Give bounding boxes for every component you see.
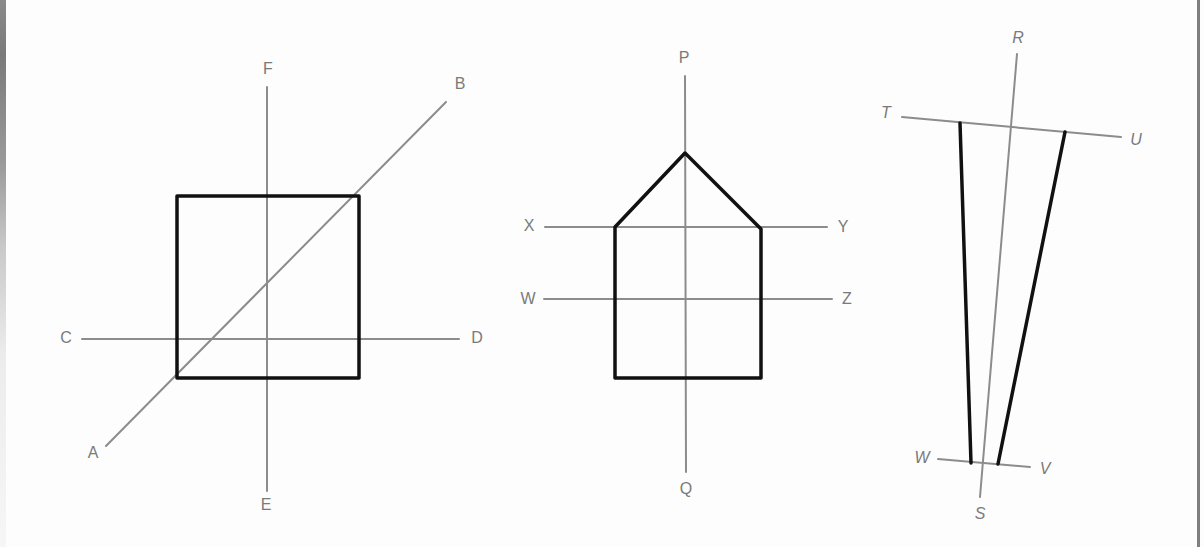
line-a-b <box>106 102 446 446</box>
label-u: U <box>1130 131 1142 148</box>
line-r-s <box>980 54 1017 497</box>
label-p: P <box>679 49 690 66</box>
label-y: Y <box>838 218 849 235</box>
label-q: Q <box>680 480 692 497</box>
diagram-canvas: A B C D E F P Q X Y W Z R <box>0 0 1204 547</box>
geometry-diagram: A B C D E F P Q X Y W Z R <box>0 0 1204 547</box>
label-x: X <box>524 217 535 234</box>
trapezoid-right-side <box>998 132 1065 464</box>
label-w2: W <box>914 449 931 466</box>
trapezoid-left-side <box>960 123 971 463</box>
label-c: C <box>60 329 72 346</box>
square-figure: A B C D E F <box>60 60 483 513</box>
label-t: T <box>881 104 892 121</box>
line-p-q <box>685 76 686 472</box>
label-d: D <box>471 329 483 346</box>
label-a: A <box>88 444 99 461</box>
label-r: R <box>1012 29 1024 46</box>
label-s: S <box>975 505 986 522</box>
label-v: V <box>1040 460 1052 477</box>
house-outline <box>615 153 761 378</box>
label-f: F <box>263 60 273 77</box>
label-w: W <box>520 290 536 307</box>
label-b: B <box>455 75 466 92</box>
house-figure: P Q X Y W Z <box>520 49 852 497</box>
label-e: E <box>261 496 272 513</box>
trapezoid-figure: R S T U W V <box>881 29 1142 522</box>
label-z: Z <box>842 290 852 307</box>
